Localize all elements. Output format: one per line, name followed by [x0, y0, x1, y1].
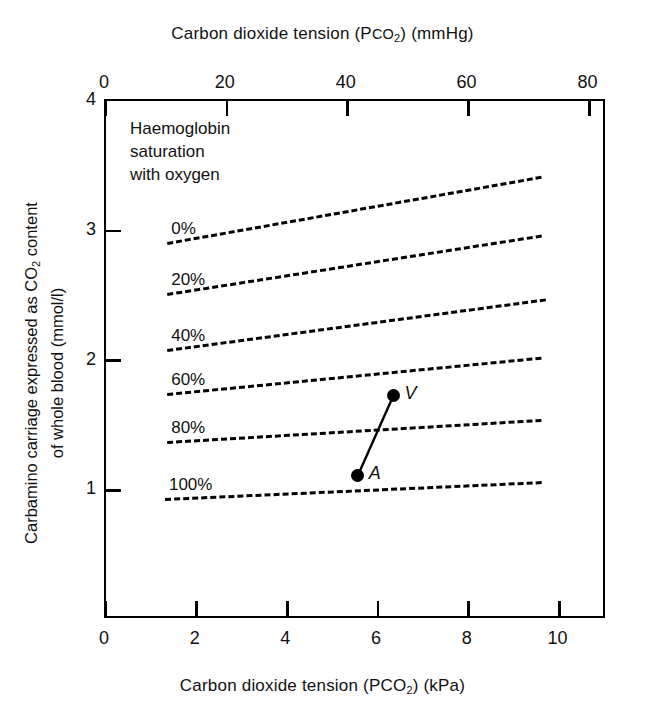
top-axis-title-co: CO: [372, 26, 394, 42]
tick-label-left-3: 3: [86, 218, 96, 239]
tick-bottom-2: [195, 601, 198, 616]
tick-label-bottom-6: 6: [371, 628, 381, 649]
tick-label-top-20: 20: [215, 72, 235, 93]
tick-label-left-2: 2: [86, 348, 96, 369]
y-axis-title-line2: of whole blood (mmol/l): [47, 113, 68, 633]
tick-bottom-0: [105, 601, 108, 616]
tick-top-0: [105, 101, 108, 116]
tick-label-top-60: 60: [457, 72, 477, 93]
bottom-axis-title-co: CO: [380, 676, 406, 695]
tick-label-top-40: 40: [336, 72, 356, 93]
tick-label-bottom-8: 8: [462, 628, 472, 649]
datapoint-label-V: V: [404, 383, 416, 404]
tick-label-bottom-0: 0: [99, 628, 109, 649]
tick-left-3: [106, 230, 121, 233]
isoline-label-80pct: 80%: [171, 418, 205, 438]
y-axis-title-line1: Carbamino carriage expressed as CO2 cont…: [21, 113, 47, 633]
tick-bottom-8: [467, 601, 470, 616]
tick-label-bottom-4: 4: [280, 628, 290, 649]
tick-label-left-1: 1: [86, 478, 96, 499]
tick-bottom-10: [558, 601, 561, 616]
plot-area: Haemoglobin saturation with oxygen 0%20%…: [104, 99, 605, 618]
bottom-axis-title: Carbon dioxide tension (PCO2) (kPa): [0, 676, 645, 696]
tick-left-2: [106, 359, 121, 362]
top-axis-title: Carbon dioxide tension (PCO2) (mmHg): [0, 24, 645, 44]
isoline-label-0pct: 0%: [171, 219, 196, 239]
tick-top-80: [588, 101, 591, 116]
isoline-label-20pct: 20%: [171, 270, 205, 290]
datapoint-label-A: A: [369, 463, 381, 484]
bottom-axis-title-suffix: ) (kPa): [413, 676, 465, 695]
y-axis-title-text-a: Carbamino carriage expressed as CO: [22, 267, 40, 544]
tick-label-top-80: 80: [577, 72, 597, 93]
carbamino-co2-chart: Carbon dioxide tension (PCO2) (mmHg) Car…: [0, 0, 645, 716]
top-axis-title-prefix: Carbon dioxide tension (P: [171, 24, 372, 43]
tick-label-top-0: 0: [99, 72, 109, 93]
tick-label-bottom-2: 2: [190, 628, 200, 649]
isoline-label-60pct: 60%: [171, 370, 205, 390]
y-axis-title-text-b: content: [22, 202, 40, 261]
y-axis-title: Carbamino carriage expressed as CO2 cont…: [21, 113, 63, 633]
bottom-axis-title-prefix: Carbon dioxide tension (P: [180, 676, 381, 695]
y-axis-title-subscript: 2: [30, 261, 42, 267]
tick-top-40: [346, 101, 349, 116]
tick-top-60: [467, 101, 470, 116]
datapoint-V: [387, 389, 400, 402]
isoline-label-100pct: 100%: [169, 475, 212, 495]
tick-bottom-6: [377, 601, 380, 616]
tick-bottom-4: [286, 601, 289, 616]
tick-top-20: [226, 101, 229, 116]
tick-label-bottom-10: 10: [547, 628, 567, 649]
isoline-label-40pct: 40%: [171, 326, 205, 346]
tick-label-left-4: 4: [86, 89, 96, 110]
tick-left-1: [106, 489, 121, 492]
top-axis-title-suffix: ) (mmHg): [400, 24, 473, 43]
